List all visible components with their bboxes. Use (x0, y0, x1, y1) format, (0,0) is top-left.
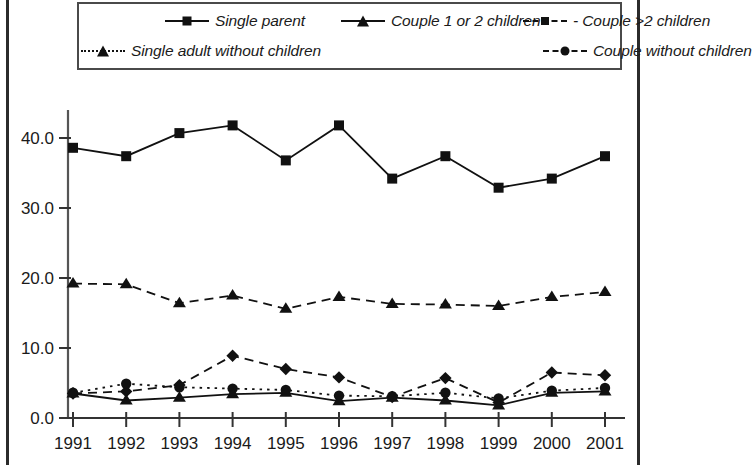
data-point-couple-without-children-1992 (121, 379, 131, 389)
y-tick-label-20.0: 20.0 (21, 269, 54, 288)
legend-item-couple-2-children[interactable]: - Couple >2 children (523, 7, 710, 35)
data-point-couple-2-children-2000 (546, 366, 558, 378)
x-tick-label-1991: 1991 (54, 434, 92, 453)
diamond-marker-icon (541, 17, 549, 25)
data-point-couple-2-children-2001 (599, 369, 611, 381)
triangle-marker-icon (357, 16, 369, 27)
data-point-single-parent-1995 (281, 155, 291, 165)
legend-label-couple-without-children: Couple without children (587, 42, 752, 60)
data-point-single-parent-1991 (68, 143, 78, 153)
legend-item-couple-without-children[interactable]: Couple without children (543, 37, 752, 65)
data-point-single-parent-1997 (387, 174, 397, 184)
data-point-single-adult-without-children-1996 (333, 290, 346, 301)
data-point-couple-2-children-1995 (280, 363, 292, 375)
y-tick-label-40.0: 40.0 (21, 129, 54, 148)
legend-item-couple-1-or-2-children[interactable]: Couple 1 or 2 children (341, 7, 540, 35)
data-point-couple-1-or-2-children-1993 (173, 391, 186, 402)
legend-item-single-parent[interactable]: Single parent (165, 7, 305, 35)
data-point-single-adult-without-children-1992 (120, 278, 133, 289)
data-point-couple-without-children-1993 (174, 382, 184, 392)
legend-label-single-parent: Single parent (209, 12, 305, 30)
x-tick-label-1993: 1993 (160, 434, 198, 453)
x-tick-label-1992: 1992 (107, 434, 145, 453)
data-point-single-parent-1993 (174, 128, 184, 138)
y-tick-label-10.0: 10.0 (21, 339, 54, 358)
data-point-single-parent-2000 (547, 174, 557, 184)
data-point-single-adult-without-children-1994 (226, 289, 239, 300)
plot-area: 0.010.020.030.040.0199119921993199419951… (0, 86, 646, 465)
series-markers-single-adult-without-children (67, 277, 612, 313)
data-point-single-parent-1999 (494, 183, 504, 193)
data-point-single-adult-without-children-2000 (545, 290, 558, 301)
square-marker-icon (183, 17, 192, 26)
x-tick-label-1994: 1994 (214, 434, 252, 453)
x-tick-label-1996: 1996 (320, 434, 358, 453)
data-point-couple-1-or-2-children-1998 (439, 394, 452, 405)
x-tick-label-1998: 1998 (426, 434, 464, 453)
legend-key-single-parent (165, 12, 209, 30)
data-point-couple-2-children-1998 (439, 372, 451, 384)
data-point-single-adult-without-children-1993 (173, 297, 186, 308)
data-point-single-parent-1994 (228, 120, 238, 130)
data-point-couple-2-children-1994 (226, 350, 238, 362)
x-tick-label-1999: 1999 (480, 434, 518, 453)
legend-key-couple-1-or-2-children (341, 12, 385, 30)
legend-key-couple-more-than-2-children (523, 12, 567, 30)
circle-marker-icon (561, 47, 570, 56)
legend-item-single-adult-without-children[interactable]: Single adult without children (81, 37, 321, 65)
x-tick-label-2001: 2001 (586, 434, 624, 453)
legend-label-single-adult-without-children: Single adult without children (125, 42, 321, 60)
series-line-single-parent (73, 125, 605, 187)
legend-row-2: Single adult without childrenCouple with… (79, 37, 620, 65)
legend-label-couple-1-or-2-children: Couple 1 or 2 children (385, 12, 540, 30)
data-point-couple-2-children-1996 (333, 371, 345, 383)
x-tick-label-2000: 2000 (533, 434, 571, 453)
series-single-parent (73, 125, 605, 187)
data-point-single-adult-without-children-1998 (439, 298, 452, 309)
triangle-marker-icon (97, 46, 109, 57)
data-point-single-parent-1996 (334, 120, 344, 130)
data-point-single-adult-without-children-2001 (599, 285, 612, 296)
legend-key-couple-without-children (543, 42, 587, 60)
data-point-single-parent-1992 (121, 151, 131, 161)
plot-svg: 0.010.020.030.040.0199119921993199419951… (0, 86, 646, 465)
data-point-single-parent-2001 (600, 151, 610, 161)
y-tick-label-0.0: 0.0 (30, 409, 54, 428)
x-tick-label-1997: 1997 (373, 434, 411, 453)
y-tick-label-30.0: 30.0 (21, 199, 54, 218)
chart-legend: Single parentCouple 1 or 2 children- Cou… (77, 2, 622, 70)
x-tick-label-1995: 1995 (267, 434, 305, 453)
legend-key-single-adult-without-children (81, 42, 125, 60)
legend-label-couple-2-children: - Couple >2 children (567, 12, 710, 30)
legend-row-1: Single parentCouple 1 or 2 children- Cou… (79, 7, 620, 35)
data-point-single-parent-1998 (440, 151, 450, 161)
